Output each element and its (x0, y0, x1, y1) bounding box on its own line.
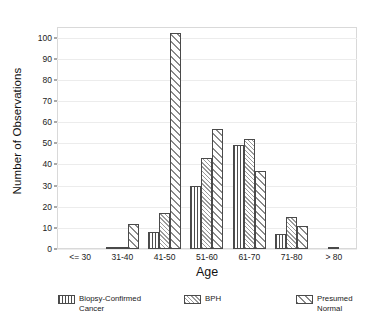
bar[interactable] (275, 234, 286, 249)
x-axis-tick-label: 31-40 (101, 252, 143, 262)
plot-area: 0102030405060708090100 (57, 27, 357, 249)
legend-label: BPH (205, 294, 221, 304)
bar-group (101, 27, 143, 249)
x-axis-title-text: Age (196, 265, 218, 279)
bar-group (228, 27, 270, 249)
legend-item[interactable]: BPH (184, 294, 296, 313)
x-axis-ticks: <= 3031-4041-5051-6061-7071-80> 80 (57, 252, 357, 262)
x-axis-tick-label: > 80 (313, 252, 355, 262)
x-axis-tick-label: 61-70 (228, 252, 270, 262)
gridline (57, 249, 357, 250)
bar[interactable] (255, 171, 266, 249)
bar[interactable] (201, 158, 212, 249)
legend-swatch-icon (58, 295, 75, 304)
legend-item[interactable]: Biopsy-Confirmed Cancer (58, 294, 184, 313)
bar-group (313, 27, 355, 249)
bar[interactable] (286, 217, 297, 249)
y-axis-title-text: Number of Observations (11, 68, 23, 195)
bar[interactable] (148, 232, 159, 249)
legend-item[interactable]: Presumed Normal (296, 294, 360, 313)
bar[interactable] (212, 129, 223, 250)
bar[interactable] (159, 213, 170, 249)
bar[interactable] (328, 247, 339, 249)
bar-chart-figure: Number of Observations 01020304050607080… (0, 0, 368, 331)
bar-group (270, 27, 312, 249)
x-axis-tick-label: 51-60 (186, 252, 228, 262)
bar[interactable] (128, 224, 139, 249)
bar[interactable] (297, 226, 308, 249)
bar-group (144, 27, 186, 249)
legend-label: Biopsy-Confirmed Cancer (79, 294, 141, 313)
x-axis-tick-label: 71-80 (270, 252, 312, 262)
x-axis-title: Age (57, 265, 357, 279)
bar[interactable] (190, 186, 201, 249)
legend-label: Presumed Normal (317, 294, 353, 313)
bar[interactable] (106, 247, 117, 249)
bar[interactable] (170, 33, 181, 249)
x-axis-tick-label: <= 30 (59, 252, 101, 262)
bar-group (186, 27, 228, 249)
bar-group (59, 27, 101, 249)
bar[interactable] (244, 139, 255, 249)
bar[interactable] (117, 247, 128, 249)
y-axis-title: Number of Observations (6, 0, 28, 262)
bar-groups (57, 27, 357, 249)
legend-swatch-icon (184, 295, 201, 304)
bar[interactable] (233, 145, 244, 249)
x-axis-tick-label: 41-50 (144, 252, 186, 262)
chart-legend: Biopsy-Confirmed CancerBPHPresumed Norma… (58, 294, 360, 313)
legend-swatch-icon (296, 295, 313, 304)
